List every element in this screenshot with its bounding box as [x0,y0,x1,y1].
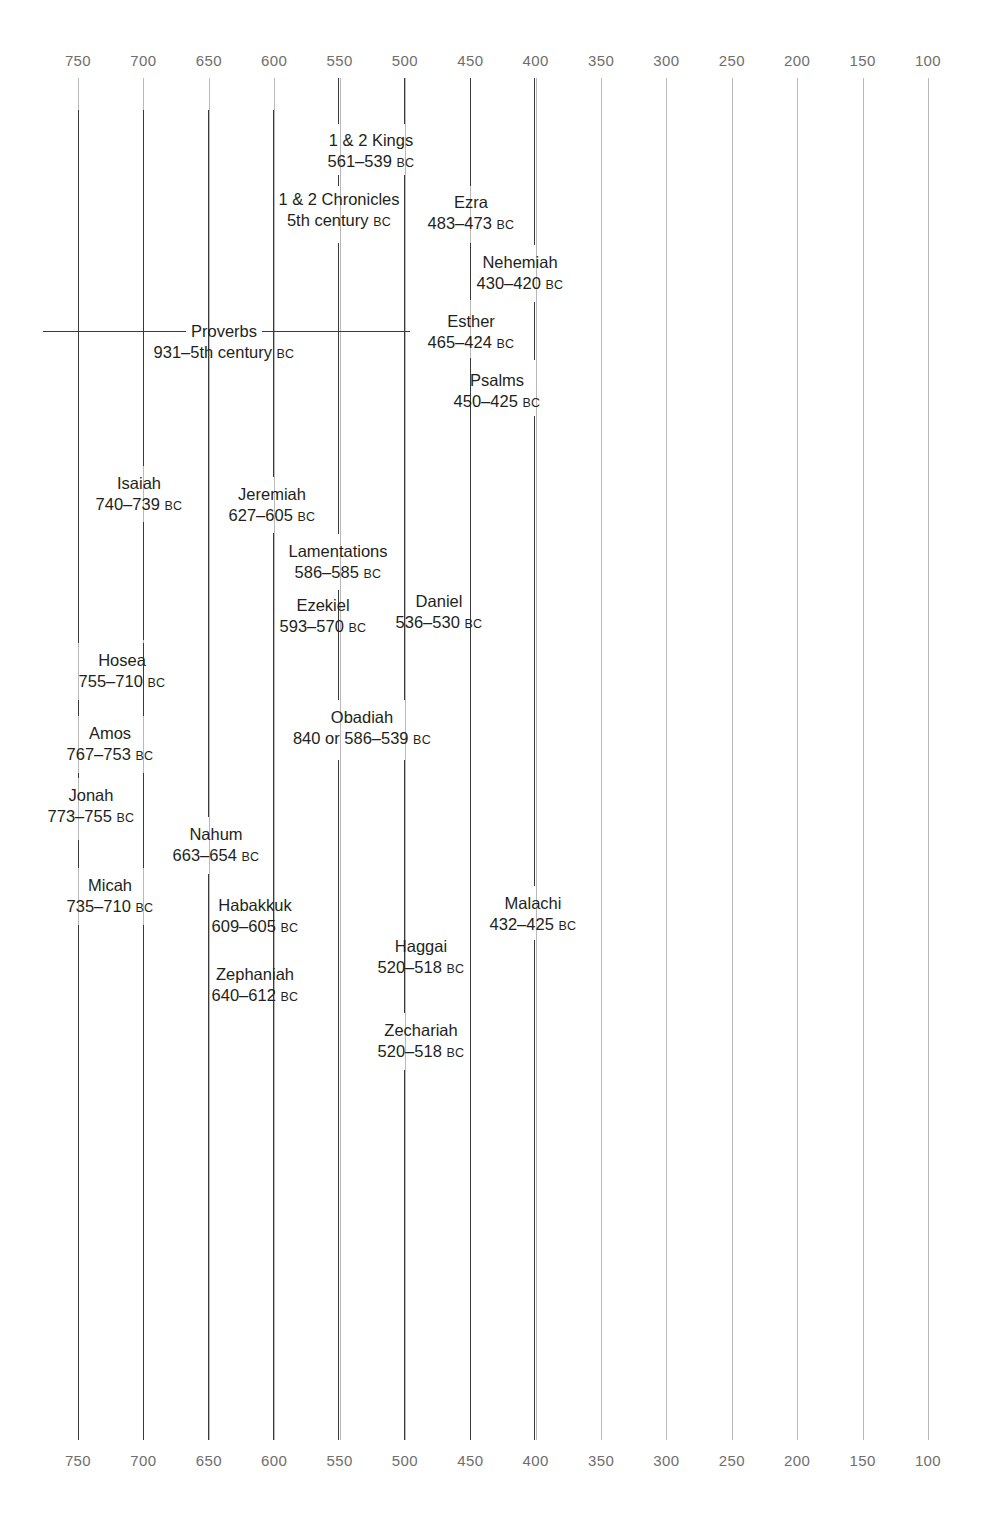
entry-daniel: Daniel536–530 BC [396,591,483,633]
top-tick-label-550: 550 [310,52,370,69]
entry-bracket [143,925,144,1440]
entry-date-range: 536–530 BC [396,612,483,633]
gridline-200 [797,78,798,1440]
entry-bracket [404,760,405,929]
entry-zechariah: Zechariah520–518 BC [378,1020,465,1062]
gridline-100 [928,78,929,1440]
entry-era-label: BC [276,347,294,361]
entry-bracket [470,478,471,584]
entry-date-value: 663–654 [173,846,237,864]
entry-era-label: BC [446,962,464,976]
entry-title: Obadiah [293,707,431,728]
entry-date-range: 520–518 BC [378,1041,465,1062]
entry-date-value: 755–710 [79,672,143,690]
entry-bracket [78,840,79,868]
entry-bracket [208,874,209,1440]
entry-date-value: 767–753 [67,745,131,763]
entry-psalms: Psalms450–425 BC [454,370,541,412]
entry-title: Psalms [454,370,541,391]
entry-title: 1 & 2 Kings [328,130,415,151]
top-tick-label-150: 150 [833,52,893,69]
entry-date-range: 640–612 BC [212,985,299,1006]
entry-title: Zephaniah [212,964,299,985]
entry-date-value: 640–612 [212,986,276,1004]
top-tick-label-700: 700 [113,52,173,69]
top-tick-label-200: 200 [767,52,827,69]
entry-zephaniah: Zephaniah640–612 BC [212,964,299,1006]
entry-era-label: BC [241,850,259,864]
top-tick-label-500: 500 [375,52,435,69]
entry-title: Hosea [79,650,166,671]
entry-date-range: 450–425 BC [454,391,541,412]
entry-date-range: 483–473 BC [428,213,515,234]
entry-date-value: 627–605 [229,506,293,524]
entry-bracket [338,243,339,328]
entry-date-range: 432–425 BC [490,914,577,935]
entry-era-label: BC [558,919,576,933]
entry-date-range: 773–755 BC [48,806,135,827]
entry-date-range: 767–753 BC [67,744,154,765]
gridline-600 [274,78,275,1440]
timeline-chart: 7507006506005505004504003503002502001501… [0,0,985,1526]
entry-era-label: BC [135,901,153,915]
entry-date-range: 735–710 BC [67,896,154,917]
entry-date-range: 740–739 BC [96,494,183,515]
entry-bracket [534,940,535,1440]
bottom-tick-label-200: 200 [767,1452,827,1469]
entry-date-range: 840 or 586–539 BC [293,728,431,749]
entry-bracket [338,175,339,186]
entry-era-label: BC [522,396,540,410]
entry-era-label: BC [280,990,298,1004]
bottom-tick-label-300: 300 [636,1452,696,1469]
entry-nehemiah: Nehemiah430–420 BC [477,252,564,294]
top-tick-label-100: 100 [898,52,958,69]
entry-nahum: Nahum663–654 BC [173,824,260,866]
entry-date-range: 586–585 BC [288,562,387,583]
bottom-tick-label-750: 750 [48,1452,108,1469]
entry-date-value: 483–473 [428,214,492,232]
entry-title: Lamentations [288,541,387,562]
entry-date-value: 740–739 [96,495,160,513]
entry-bracket [78,925,79,1440]
entry-title: Micah [67,875,154,896]
entry-title: Jeremiah [229,484,316,505]
entry-era-label: BC [464,617,482,631]
entry-date-value: 593–570 [280,617,344,635]
entry-date-value: 840 or 586–539 [293,729,409,747]
entry-title: Nahum [173,824,260,845]
bottom-tick-label-250: 250 [702,1452,762,1469]
entry-ezekiel: Ezekiel593–570 BC [280,595,367,637]
entry-isaiah: Isaiah740–739 BC [96,473,183,515]
entry-date-value: 586–585 [295,563,359,581]
entry-bracket [404,1070,405,1440]
entry-era-label: BC [147,676,165,690]
top-tick-label-650: 650 [179,52,239,69]
entry-date-range: 5th century BC [278,210,399,231]
bottom-tick-label-450: 450 [440,1452,500,1469]
entry-era-label: BC [280,921,298,935]
entry-lamentations: Lamentations586–585 BC [288,541,387,583]
entry-bracket [404,326,405,700]
bottom-tick-label-150: 150 [833,1452,893,1469]
entry-era-label: BC [446,1046,464,1060]
entry-era-label: BC [348,621,366,635]
entry-1-2-kings: 1 & 2 Kings561–539 BC [328,130,415,172]
bottom-tick-label-500: 500 [375,1452,435,1469]
entry-bracket [534,876,535,886]
entry-title: Malachi [490,893,577,914]
entry-bracket [78,773,79,778]
bottom-tick-label-550: 550 [310,1452,370,1469]
entry-bracket [470,78,471,186]
entry-bracket [143,522,144,640]
entry-bracket [143,773,144,868]
entry-bracket [404,78,405,124]
entry-title: Proverbs [154,321,295,342]
entry-bracket [534,302,535,360]
entry-bracket [470,243,471,300]
entry-bracket [404,243,405,328]
entry-bracket [143,110,144,466]
entry-title: Nehemiah [477,252,564,273]
entry-date-value: 450–425 [454,392,518,410]
entry-era-label: BC [363,567,381,581]
bottom-tick-label-700: 700 [113,1452,173,1469]
